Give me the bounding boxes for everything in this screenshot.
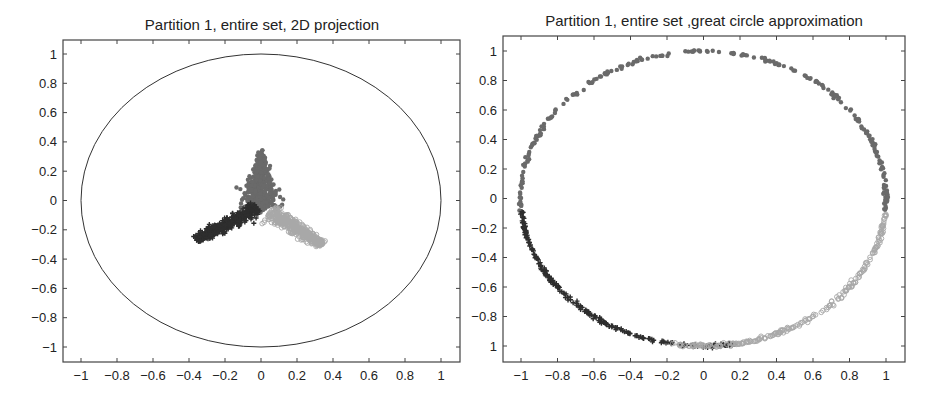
x-tick-label: −0.4 (176, 368, 202, 383)
data-point (261, 184, 265, 188)
x-tick-label: 0.6 (360, 368, 378, 383)
data-point (626, 62, 630, 66)
data-point (793, 69, 797, 73)
data-point (883, 198, 887, 202)
data-point (852, 113, 856, 117)
data-point (253, 190, 257, 194)
y-tick-label: −0.6 (31, 281, 57, 296)
data-point (590, 80, 594, 84)
data-point (258, 192, 262, 196)
data-point (526, 154, 530, 158)
y-tick-label: 1 (490, 44, 497, 59)
plot-title: Partition 1, entire set, 2D projection (145, 16, 379, 33)
data-point (848, 108, 852, 112)
data-point (269, 199, 273, 203)
axis-ticks (503, 36, 905, 362)
data-point (539, 124, 543, 128)
data-point (242, 191, 246, 195)
data-point (575, 91, 579, 95)
data-point (561, 102, 565, 106)
data-point (815, 80, 819, 84)
data-point (246, 178, 250, 182)
y-tick-label: −0.8 (31, 310, 57, 325)
data-point (767, 59, 771, 63)
x-tick-label: 0 (257, 368, 264, 383)
x-tick-label: −0.8 (104, 368, 130, 383)
data-point (525, 159, 529, 163)
x-tick-label: −1 (74, 368, 89, 383)
data-point (665, 54, 669, 58)
y-tick-label: −0.2 (471, 221, 497, 236)
x-tick-label: 0.8 (840, 368, 858, 383)
y-tick-label: 0.2 (479, 162, 497, 177)
data-point (535, 138, 539, 142)
x-tick-label: 0.4 (767, 368, 785, 383)
data-point (875, 150, 879, 154)
data-point (565, 98, 569, 102)
x-tick-label: 0.2 (731, 368, 749, 383)
data-point (634, 59, 638, 63)
data-point (615, 68, 619, 72)
data-point (269, 187, 273, 191)
data-point (630, 62, 634, 66)
data-point (571, 93, 575, 97)
data-point (549, 115, 553, 119)
data-point (870, 137, 874, 141)
x-tick-label: 0.6 (804, 368, 822, 383)
data-point (689, 49, 693, 53)
data-point (696, 48, 700, 52)
data-point (264, 167, 268, 171)
x-tick-label: 0 (700, 368, 707, 383)
data-point (254, 169, 258, 173)
y-tick-label: −1 (42, 340, 57, 355)
data-point (882, 185, 886, 189)
data-point (238, 187, 242, 191)
x-tick-label: −0.6 (140, 368, 166, 383)
data-point (553, 111, 557, 115)
y-tick-label: −0.2 (31, 222, 57, 237)
data-point (881, 166, 885, 170)
data-point (249, 188, 253, 192)
y-tick-label: 0.6 (39, 105, 57, 120)
y-tick-label: 1 (50, 47, 57, 62)
data-point (268, 181, 272, 185)
data-point (258, 179, 262, 183)
x-tick-label: 0.8 (396, 368, 414, 383)
data-point (752, 55, 756, 59)
data-point (241, 196, 245, 200)
figure: Partition 1, entire set, 2D projection −… (0, 0, 933, 399)
series-cluster-top (234, 148, 285, 214)
data-point (717, 50, 721, 54)
data-point (263, 190, 267, 194)
data-point (266, 177, 270, 181)
axes-box (503, 36, 905, 362)
plot-title: Partition 1, entire set ,great circle ap… (545, 12, 863, 29)
data-point (251, 221, 256, 226)
data-points (191, 148, 327, 249)
data-point (259, 160, 263, 164)
data-point (660, 54, 664, 58)
y-tick-label: 0 (490, 191, 497, 206)
data-point (539, 131, 543, 135)
data-point (821, 84, 825, 88)
x-tick-label: −0.2 (654, 368, 680, 383)
data-point (599, 74, 603, 78)
plot-great-circle: Partition 1, entire set ,great circle ap… (471, 12, 905, 383)
data-point (640, 57, 644, 61)
y-tick-label: 0.2 (39, 164, 57, 179)
data-point (732, 51, 736, 55)
x-tick-label: −0.8 (545, 368, 571, 383)
series-cluster-right (260, 205, 328, 249)
data-point (881, 175, 885, 179)
data-point (844, 106, 848, 110)
data-point (877, 161, 881, 165)
series-cluster-top (517, 48, 890, 212)
data-point (255, 175, 259, 179)
x-tick-label: 1 (437, 368, 444, 383)
data-point (258, 151, 262, 155)
data-point (860, 126, 864, 130)
x-tick-label: −1 (514, 368, 529, 383)
data-point (789, 66, 793, 70)
series-cluster-right (670, 212, 888, 349)
data-point (826, 87, 830, 91)
